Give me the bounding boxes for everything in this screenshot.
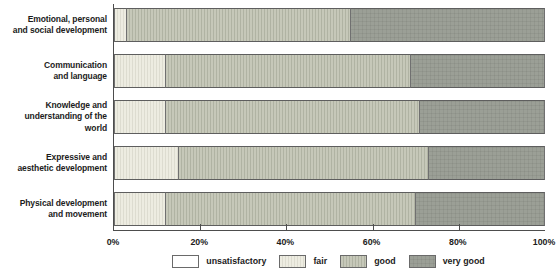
legend-swatch-very-good — [409, 255, 436, 268]
bar-segment-good — [166, 192, 416, 226]
category-label: Expressive and aesthetic development — [1, 152, 107, 175]
x-axis-tick-label: 40% — [277, 237, 295, 247]
bar-row — [114, 54, 545, 88]
legend-label: unsatisfactory — [206, 256, 266, 266]
x-axis-tick — [373, 224, 374, 230]
bar-row — [114, 8, 545, 42]
bar-row — [114, 192, 545, 226]
legend-item: very good — [409, 255, 485, 268]
bar-segment-fair — [114, 146, 179, 180]
bar-row — [114, 100, 545, 134]
legend-swatch-unsatisfactory — [172, 255, 199, 268]
bar-segment-good — [166, 100, 420, 134]
category-label: Communication and language — [1, 60, 107, 83]
bar-segment-very-good — [429, 146, 545, 180]
legend-swatch-fair — [279, 255, 306, 268]
legend-label: good — [374, 256, 396, 266]
bar-segment-good — [127, 8, 351, 42]
category-label: Knowledge and understanding of the world — [1, 100, 107, 134]
bar-segment-very-good — [420, 100, 545, 134]
plot-area — [113, 4, 545, 231]
bar-segment-fair — [114, 192, 166, 226]
bar-segment-fair — [114, 54, 166, 88]
bar-segment-fair — [114, 8, 127, 42]
x-axis-tick-label: 60% — [363, 237, 381, 247]
bar-segment-good — [179, 146, 429, 180]
x-axis-tick — [286, 224, 287, 230]
x-axis-tick-label: 0% — [107, 237, 120, 247]
bar-segment-very-good — [411, 54, 545, 88]
category-label: Emotional, personal and social developme… — [1, 14, 107, 37]
x-axis-tick-label: 80% — [449, 237, 467, 247]
legend: unsatisfactoryfairgoodvery good — [113, 252, 544, 270]
legend-item: fair — [279, 255, 327, 268]
legend-item: unsatisfactory — [172, 255, 266, 268]
legend-label: very good — [443, 256, 485, 266]
bar-segment-very-good — [416, 192, 545, 226]
legend-swatch-good — [340, 255, 367, 268]
bar-segment-very-good — [351, 8, 545, 42]
legend-item: good — [340, 255, 396, 268]
x-axis-tick — [200, 224, 201, 230]
legend-label: fair — [313, 256, 327, 266]
bar-segment-fair — [114, 100, 166, 134]
bar-segment-good — [166, 54, 412, 88]
x-axis-tick-label: 20% — [190, 237, 208, 247]
category-label: Physical development and movement — [1, 198, 107, 221]
x-axis-tick — [459, 224, 460, 230]
x-axis-tick-label: 100% — [533, 237, 556, 247]
stacked-bar-chart: Emotional, personal and social developme… — [0, 0, 557, 278]
bar-row — [114, 146, 545, 180]
